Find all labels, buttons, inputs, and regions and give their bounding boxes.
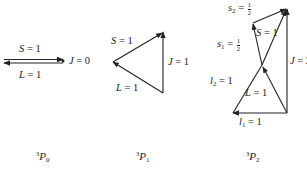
- label-J-3p0: J = 0: [69, 56, 90, 67]
- term-letter: P: [139, 150, 146, 162]
- label-value: 1: [257, 116, 262, 127]
- label-L-3p0: L = 1: [19, 70, 41, 81]
- label-eq: =: [261, 27, 272, 38]
- label-s1-3p2: s1 = 12: [217, 38, 240, 52]
- label-eq: =: [116, 35, 127, 46]
- label-eq: =: [251, 87, 262, 98]
- term-symbol-3p1: 3P1: [136, 151, 149, 164]
- label-value: 1: [133, 82, 138, 93]
- vector-coupling-diagram: [0, 0, 307, 169]
- label-eq: =: [295, 55, 306, 66]
- label-J-3p1: J = 1: [168, 57, 189, 68]
- label-value: 1: [262, 87, 267, 98]
- term-j: 2: [256, 156, 260, 164]
- label-eq: =: [25, 69, 36, 80]
- label-fraction: 12: [248, 2, 251, 16]
- term-symbol-3p0: 3P0: [36, 151, 49, 164]
- label-l1-3p2: l1 = 1: [239, 117, 262, 129]
- label-value: 1: [272, 27, 277, 38]
- label-value: 0: [85, 55, 90, 66]
- label-eq: =: [173, 56, 184, 67]
- label-L-3p1: L = 1: [116, 83, 138, 94]
- label-value: 1: [35, 43, 40, 54]
- label-L-3p2: L = 1: [245, 88, 267, 99]
- term-symbol-3p2: 3P2: [246, 151, 259, 164]
- label-eq: =: [245, 116, 256, 127]
- label-value: 1: [228, 75, 233, 86]
- label-S-3p1: S = 1: [111, 36, 133, 47]
- label-value: 1: [36, 69, 41, 80]
- fraction-denominator: 2: [248, 9, 251, 17]
- vector-J-zero-point: [62, 60, 65, 63]
- label-value: 1: [127, 35, 132, 46]
- label-eq: =: [225, 38, 236, 49]
- term-j: 0: [46, 156, 50, 164]
- term-letter: P: [39, 150, 46, 162]
- label-eq: =: [24, 43, 35, 54]
- fraction-numerator: 1: [248, 2, 251, 9]
- label-eq: =: [74, 55, 85, 66]
- label-S-3p0: S = 1: [19, 44, 41, 55]
- label-value: 1: [184, 56, 189, 67]
- label-value: 2: [306, 55, 307, 66]
- term-j: 1: [146, 156, 150, 164]
- label-eq: =: [236, 2, 247, 13]
- label-l2-3p2: l2 = 1: [210, 76, 233, 88]
- label-eq: =: [216, 75, 227, 86]
- label-S-3p2: S = 1: [256, 28, 278, 39]
- term-letter: P: [249, 150, 256, 162]
- label-J-3p2: J = 2: [290, 56, 307, 67]
- label-eq: =: [122, 82, 133, 93]
- label-s2-3p2: s2 = 12: [228, 2, 251, 16]
- fraction-denominator: 2: [237, 45, 240, 53]
- diagram-3p0: [4, 60, 65, 64]
- fraction-numerator: 1: [237, 38, 240, 45]
- label-fraction: 12: [237, 38, 240, 52]
